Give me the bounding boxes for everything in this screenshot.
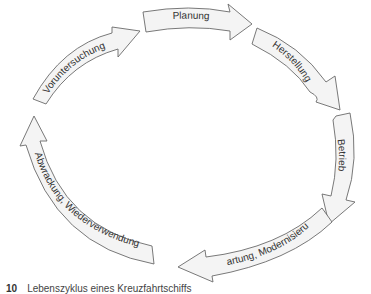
figure-caption-text: Lebenszyklus eines Kreuzfahrtschiffs	[27, 283, 191, 294]
stage-arrow-abwrackung: Abwrackung, Wiederverwendung	[20, 116, 154, 264]
stage-label-voruntersuchung: Voruntersuchung	[40, 40, 106, 96]
stage-arrow-herstellung: Herstellung	[252, 28, 340, 110]
figure-number: 10	[6, 283, 17, 294]
stage-label-planung: Planung	[172, 10, 209, 22]
stage-label-betrieb: Betrieb	[336, 138, 348, 172]
stage-arrow-planung: Planung	[143, 4, 252, 40]
stage-arrow-voruntersuchung: Voruntersuchung	[33, 27, 140, 104]
figure-caption: 10Lebenszyklus eines Kreuzfahrtschiffs	[6, 283, 191, 294]
stage-arrow-betrieb: Betrieb	[322, 113, 355, 224]
